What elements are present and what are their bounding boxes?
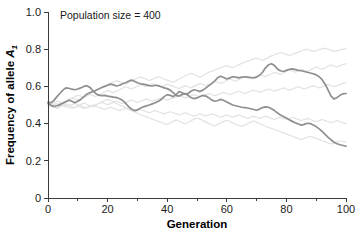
population-size-annotation: Population size = 400 <box>60 9 161 21</box>
y-tick-label: 0.2 <box>26 155 41 167</box>
trace-replicate-3 <box>48 48 346 105</box>
x-tick-label: 40 <box>161 203 173 215</box>
labels-group: 00.20.40.60.81.0020406080100GenerationFr… <box>4 6 355 230</box>
y-tick-label: 1.0 <box>26 6 41 18</box>
chart-canvas: 00.20.40.60.81.0020406080100GenerationFr… <box>0 0 356 234</box>
y-tick-label: 0.4 <box>26 117 41 129</box>
y-tick-label: 0.8 <box>26 43 41 55</box>
faint-trace-group <box>48 48 346 144</box>
x-tick-label: 20 <box>101 203 113 215</box>
y-axis-title: Frequency of allele A1 <box>4 44 19 165</box>
x-axis-title: Generation <box>167 218 228 230</box>
trace-replicate-1 <box>48 64 346 111</box>
x-tick-label: 0 <box>45 203 51 215</box>
x-tick-label: 100 <box>337 203 355 215</box>
genetic-drift-chart: 00.20.40.60.81.0020406080100GenerationFr… <box>0 0 356 234</box>
x-tick-label: 60 <box>221 203 233 215</box>
trace-replicate-7 <box>48 105 346 124</box>
x-tick-label: 80 <box>280 203 292 215</box>
y-tick-label: 0.6 <box>26 80 41 92</box>
y-tick-label: 0 <box>35 192 41 204</box>
